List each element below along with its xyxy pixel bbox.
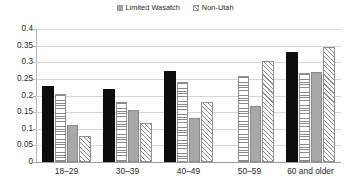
bar-group: [97, 29, 158, 162]
bar: [140, 123, 151, 162]
y-tick-label-0.2: 0.2: [3, 92, 33, 100]
bar: [238, 76, 249, 162]
chart-legend: Limited Wasatch Non-Utah: [0, 1, 350, 14]
bar: [311, 72, 322, 162]
bar: [250, 106, 261, 162]
legend-label-limited-wasatch: Limited Wasatch: [126, 4, 180, 12]
x-tick-label: 40–49: [158, 166, 219, 176]
y-tick-label-0: 0: [3, 158, 33, 166]
bar: [67, 125, 78, 162]
bar: [55, 94, 66, 162]
bar: [323, 47, 334, 162]
bar-group: [219, 29, 280, 162]
y-tick-label-0.05: 0.05: [3, 141, 33, 149]
bar: [299, 73, 310, 162]
bar: [103, 89, 114, 162]
legend-swatch-hatched-square-icon: [193, 5, 199, 11]
bar: [201, 102, 212, 163]
bar: [177, 82, 188, 162]
bar: [189, 118, 200, 162]
gridline-0: [36, 162, 341, 163]
x-tick-label: 60 and older: [280, 166, 341, 176]
legend-label-non-utah: Non-Utah: [202, 4, 234, 12]
y-tick-label-0.25: 0.25: [3, 75, 33, 83]
legend-item-limited-wasatch: Limited Wasatch: [117, 4, 180, 12]
legend-swatch-gray-square-icon: [117, 5, 123, 11]
y-tick-label-0.35: 0.35: [3, 42, 33, 50]
y-tick-label-0.3: 0.3: [3, 58, 33, 66]
bar: [79, 136, 90, 162]
bar-group: [280, 29, 341, 162]
bar: [262, 61, 273, 162]
legend-item-non-utah: Non-Utah: [193, 4, 234, 12]
y-axis-labels: 00.050.10.150.20.250.30.350.4: [0, 29, 33, 162]
plot-area: [36, 29, 341, 162]
bar-group: [36, 29, 97, 162]
x-axis-labels: 18–2930–3940–4950–5960 and older: [36, 166, 341, 186]
bar-chart: Limited Wasatch Non-Utah 00.050.10.150.2…: [0, 0, 350, 190]
bar: [42, 86, 53, 162]
y-tick-label-0.15: 0.15: [3, 108, 33, 116]
x-tick-label: 50–59: [219, 166, 280, 176]
bar-group: [158, 29, 219, 162]
bar: [164, 71, 175, 162]
bar: [116, 102, 127, 162]
x-tick-label: 18–29: [36, 166, 97, 176]
bar: [286, 52, 297, 162]
bar: [128, 110, 139, 162]
x-tick-label: 30–39: [97, 166, 158, 176]
y-tick-label-0.4: 0.4: [3, 25, 33, 33]
y-tick-label-0.1: 0.1: [3, 125, 33, 133]
